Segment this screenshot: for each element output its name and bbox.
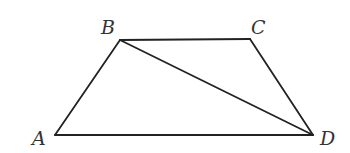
segment-cd <box>250 39 313 135</box>
vertex-labels: A B C D <box>30 16 335 149</box>
segment-bc <box>120 39 250 40</box>
trapezoid-diagram: A B C D <box>0 0 350 153</box>
vertex-label-c: C <box>251 16 266 38</box>
vertex-label-b: B <box>100 16 115 38</box>
vertex-label-a: A <box>30 127 46 149</box>
vertex-label-d: D <box>319 127 335 149</box>
segment-bd <box>120 40 313 135</box>
segment-ab <box>55 40 120 135</box>
edges <box>55 39 313 135</box>
